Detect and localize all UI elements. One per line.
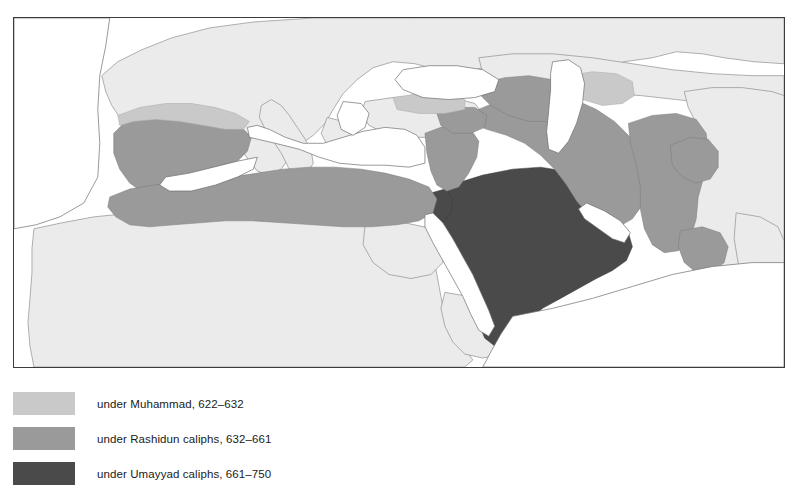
legend-item-rashidun: under Rashidun caliphs, 632–661 [13,421,613,456]
legend-label-rashidun: under Rashidun caliphs, 632–661 [97,433,271,445]
legend-label-muhammad: under Muhammad, 622–632 [97,398,244,410]
legend-item-umayyad: under Umayyad caliphs, 661–750 [13,456,613,491]
map-figure: under Muhammad, 622–632 under Rashidun c… [0,0,796,502]
map-canvas [14,18,784,367]
legend-swatch-umayyad [13,462,75,485]
legend-label-umayyad: under Umayyad caliphs, 661–750 [97,468,271,480]
legend-swatch-muhammad [13,392,75,415]
map-frame [13,17,785,368]
legend-swatch-rashidun [13,427,75,450]
legend-item-muhammad: under Muhammad, 622–632 [13,386,613,421]
map-legend: under Muhammad, 622–632 under Rashidun c… [13,386,613,491]
